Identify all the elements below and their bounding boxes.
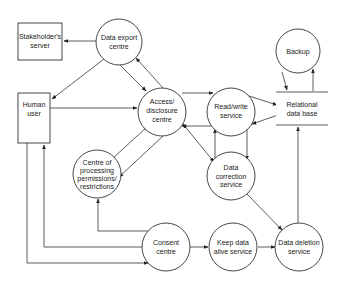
label-line: service: [220, 112, 242, 119]
edge-access-to-export: [136, 58, 163, 88]
label-line: data base: [287, 110, 318, 117]
label-line: centre: [109, 43, 129, 50]
edge-export-to-access: [120, 65, 146, 91]
edge-access-correction: [183, 124, 214, 162]
edge-export-to-human: [52, 59, 104, 99]
label-line: server: [30, 42, 50, 49]
label-line: Stakeholder's: [19, 33, 62, 40]
label-line: user: [27, 110, 41, 117]
label-line: Data deletion: [278, 239, 319, 246]
label-line: restrictions: [80, 183, 114, 190]
label-line: centre: [152, 116, 172, 123]
label-line: Centre of: [83, 159, 112, 166]
label-line: Relational: [286, 101, 318, 108]
label-line: Read/write: [214, 103, 248, 110]
node-backup[interactable]: Backup: [276, 29, 320, 73]
label-line: service: [220, 181, 242, 188]
label-line: Keep data: [217, 239, 249, 247]
node-relational-data-base[interactable]: Relationaldata base: [276, 92, 328, 125]
node-processing-permissions-centre[interactable]: Centre ofprocessingpermissions/restricti…: [73, 150, 121, 198]
label-line: disclosure: [146, 107, 178, 114]
edge-access-to-processing: [119, 136, 163, 177]
label-line: correction: [216, 173, 247, 180]
edge-correction-to-deletion: [247, 194, 282, 230]
label-line: Access/: [150, 98, 175, 105]
label-line: service: [288, 248, 310, 255]
node-access-disclosure-centre[interactable]: Access/disclosurecentre: [138, 88, 186, 136]
label-line: Consent: [153, 239, 179, 246]
node-data-export-centre[interactable]: Data exportcentre: [96, 19, 142, 65]
node-keep-data-alive-service[interactable]: Keep dataalive service: [209, 223, 257, 271]
label-line: Data export: [101, 34, 137, 42]
node-human-user[interactable]: Humanuser: [18, 93, 50, 143]
node-read-write-service[interactable]: Read/writeservice: [207, 88, 255, 136]
node-stakeholder-server[interactable]: Stakeholder'sserver: [18, 23, 62, 60]
label-line: alive service: [214, 248, 253, 255]
edge-db-to-readwrite: [252, 115, 278, 124]
node-data-correction-service[interactable]: Datacorrectionservice: [207, 152, 255, 200]
node-consent-centre[interactable]: Consentcentre: [142, 223, 190, 271]
svg-text:Centre ofprocessingpermissions: Centre ofprocessingpermissions/restricti…: [77, 159, 116, 190]
svg-text:Backup: Backup: [286, 48, 309, 56]
edge-backup-to-db: [282, 72, 287, 90]
edge-consent-to-processing: [98, 199, 148, 231]
label-line: processing: [80, 167, 114, 175]
data-flow-diagram: Stakeholder'sserver Data exportcentre Hu…: [0, 0, 339, 286]
label-line: Human: [23, 101, 46, 108]
label-line: Data: [224, 164, 239, 171]
edge-processing-to-access: [112, 126, 148, 159]
label-line: centre: [156, 248, 176, 255]
label-line: Backup: [286, 48, 309, 56]
label-line: permissions/: [77, 175, 116, 183]
node-data-deletion-service[interactable]: Data deletionservice: [275, 223, 323, 271]
